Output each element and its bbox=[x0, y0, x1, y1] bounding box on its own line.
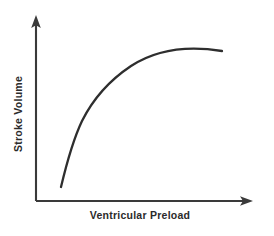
y-axis-label: Stroke Volume bbox=[12, 76, 24, 152]
frank-starling-figure: Ventricular Preload Stroke Volume bbox=[0, 0, 274, 236]
x-axis-label: Ventricular Preload bbox=[90, 209, 190, 221]
stroke-volume-curve bbox=[61, 49, 222, 187]
chart-canvas: Ventricular Preload Stroke Volume bbox=[0, 0, 274, 236]
